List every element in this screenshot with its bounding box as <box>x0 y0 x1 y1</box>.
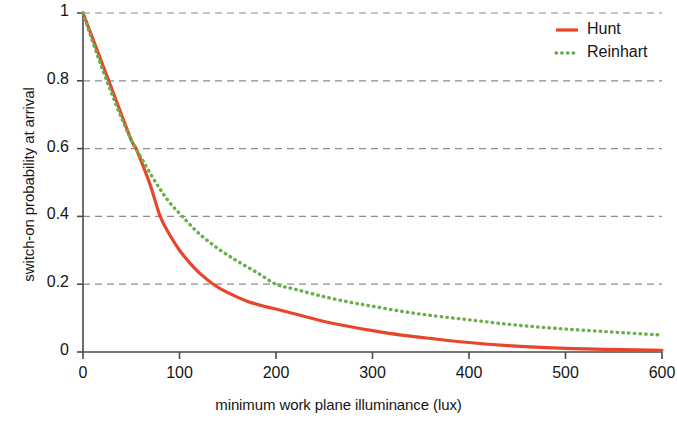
x-axis-title: minimum work plane illuminance (lux) <box>0 396 677 413</box>
legend-label-reinhart: Reinhart <box>587 43 647 61</box>
legend-label-hunt: Hunt <box>587 20 621 38</box>
x-tick-label: 0 <box>53 364 113 382</box>
x-tick-label: 200 <box>246 364 306 382</box>
y-tick-label: 1 <box>29 2 69 20</box>
x-tick-label: 500 <box>536 364 596 382</box>
series-line-hunt <box>83 13 662 350</box>
y-tick-label: 0.4 <box>29 205 69 223</box>
series-line-reinhart <box>83 13 662 335</box>
y-tick-label: 0.8 <box>29 70 69 88</box>
x-tick-label: 300 <box>343 364 403 382</box>
x-tick-label: 100 <box>150 364 210 382</box>
chart-figure: minimum work plane illuminance (lux) swi… <box>0 0 677 421</box>
x-tick-label: 400 <box>439 364 499 382</box>
y-tick-label: 0 <box>29 341 69 359</box>
y-tick-label: 0.6 <box>29 138 69 156</box>
x-tick-label: 600 <box>632 364 677 382</box>
y-tick-label: 0.2 <box>29 273 69 291</box>
plot-canvas <box>0 0 677 421</box>
